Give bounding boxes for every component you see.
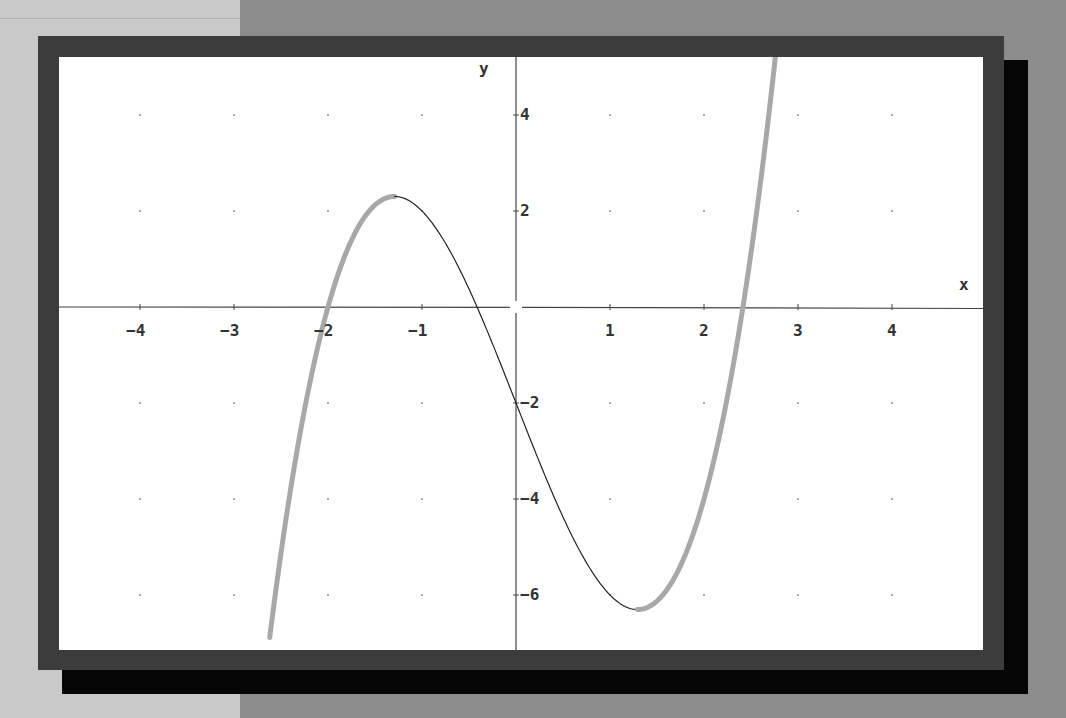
grid-dot xyxy=(797,594,799,596)
grid-dot xyxy=(703,402,705,404)
axes xyxy=(59,57,983,650)
function-graph xyxy=(59,57,983,650)
grid-dot xyxy=(797,210,799,212)
y-tick-label: −6 xyxy=(520,585,539,604)
grid-dot xyxy=(327,402,329,404)
grid-dot xyxy=(797,114,799,116)
grid-dot xyxy=(703,210,705,212)
x-axis-label: x xyxy=(959,275,969,294)
grid-dot xyxy=(797,498,799,500)
y-tick-label: 4 xyxy=(520,105,530,124)
grid-dot xyxy=(327,594,329,596)
grid-dot xyxy=(327,498,329,500)
grid-dot xyxy=(891,594,893,596)
grid-dot xyxy=(609,402,611,404)
grid-dot xyxy=(139,498,141,500)
x-tick-label: 4 xyxy=(887,321,897,340)
grid-dot xyxy=(139,210,141,212)
grid-dot xyxy=(891,402,893,404)
grid-dot xyxy=(327,114,329,116)
x-tick-label: 1 xyxy=(605,321,615,340)
grid-dot xyxy=(609,114,611,116)
curve-segment xyxy=(270,196,395,637)
grid-dot xyxy=(609,210,611,212)
grid-dot xyxy=(233,114,235,116)
background-divider xyxy=(0,18,240,19)
cubic-curve xyxy=(270,57,778,637)
x-tick-label: 3 xyxy=(793,321,803,340)
grid-dot xyxy=(421,594,423,596)
plot-area: −4−3−2−11234 42−2−4−6 x y xyxy=(59,57,983,650)
grid-dot xyxy=(891,114,893,116)
y-axis-label: y xyxy=(479,59,489,78)
y-tick-label: −2 xyxy=(520,393,539,412)
grid-dot xyxy=(891,498,893,500)
x-axis-line-right xyxy=(522,307,983,308)
grid-dot xyxy=(421,498,423,500)
grid-dot xyxy=(891,210,893,212)
grid-dot xyxy=(421,402,423,404)
grid-dot xyxy=(139,594,141,596)
grid-dot xyxy=(139,114,141,116)
x-tick-label: −2 xyxy=(314,321,333,340)
x-tick-label: −4 xyxy=(126,321,145,340)
grid-dot xyxy=(233,498,235,500)
grid-dot xyxy=(797,402,799,404)
grid-dot xyxy=(609,498,611,500)
y-tick-label: 2 xyxy=(520,201,530,220)
x-tick-label: 2 xyxy=(699,321,709,340)
x-tick-label: −1 xyxy=(408,321,427,340)
grid-dot xyxy=(703,594,705,596)
grid-dot xyxy=(233,402,235,404)
grid-dot xyxy=(233,210,235,212)
grid-dot xyxy=(421,114,423,116)
grid-dot xyxy=(139,402,141,404)
x-tick-label: −3 xyxy=(220,321,239,340)
grid-dot xyxy=(703,114,705,116)
grid-dot xyxy=(233,594,235,596)
y-tick-label: −4 xyxy=(520,489,539,508)
grid-dot xyxy=(327,210,329,212)
